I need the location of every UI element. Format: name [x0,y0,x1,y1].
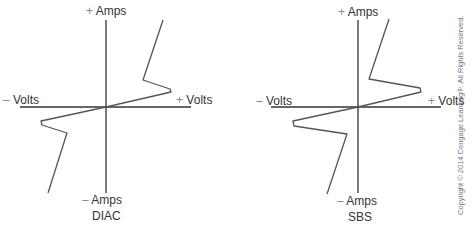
label-text: Amps [348,5,379,19]
plus-sign: + [86,4,93,18]
plus-sign: + [338,5,345,19]
copyright-notice: Copyright © 2014 Cengage Learning®. All … [456,15,465,215]
diac-neg-amps-label: – Amps [82,193,122,207]
minus-sign: – [337,194,344,208]
diagram-canvas [0,0,472,227]
sbs-caption: SBS [348,210,372,224]
diac-neg-volts-label: – Volts [3,93,39,107]
label-text: Amps [346,194,377,208]
minus-sign: – [256,94,263,108]
label-text: Volts [13,93,39,107]
sbs-neg-amps-label: – Amps [337,194,377,208]
diac-caption: DIAC [92,209,121,223]
minus-sign: – [82,193,89,207]
sbs-pos-amps-label: + Amps [338,5,378,19]
sbs-neg-volts-label: – Volts [256,94,292,108]
plus-sign: + [428,94,435,108]
label-text: Volts [186,93,212,107]
minus-sign: – [3,93,10,107]
plus-sign: + [176,93,183,107]
label-text: Volts [266,94,292,108]
label-text: Amps [91,193,122,207]
diac-pos-volts-label: + Volts [176,93,212,107]
label-text: Amps [96,4,127,18]
diac-pos-amps-label: + Amps [86,4,126,18]
